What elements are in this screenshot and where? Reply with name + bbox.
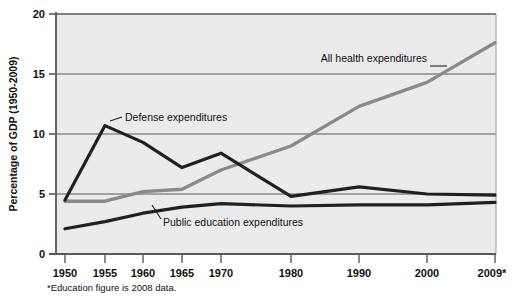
x-tick-label-1980: 1980 — [279, 267, 303, 279]
x-tick-label-1950: 1950 — [53, 267, 77, 279]
expenditures-line-chart: 20 15 10 5 0 Percentage of GDP (1950-200… — [0, 0, 518, 300]
x-tick-label-1955: 1955 — [93, 267, 117, 279]
y-tick-label-20: 20 — [33, 8, 45, 20]
y-tick-label-5: 5 — [39, 188, 45, 200]
footnote: *Education figure is 2008 data. — [47, 282, 176, 293]
y-tick-label-15: 15 — [33, 68, 45, 80]
y-tick-label-10: 10 — [33, 128, 45, 140]
x-tick-label-2000: 2000 — [415, 267, 439, 279]
x-tick-label-1960: 1960 — [131, 267, 155, 279]
chart-container: 20 15 10 5 0 Percentage of GDP (1950-200… — [0, 0, 518, 300]
series-label-defense: Defense expenditures — [125, 111, 227, 123]
x-tick-label-1965: 1965 — [170, 267, 194, 279]
x-tick-label-2009: 2009* — [478, 267, 507, 279]
series-label-health: All health expenditures — [321, 52, 427, 64]
y-tick-label-0: 0 — [39, 248, 45, 260]
x-tick-label-1970: 1970 — [209, 267, 233, 279]
y-axis-title: Percentage of GDP (1950-2009) — [7, 56, 19, 211]
series-label-education: Public education expenditures — [163, 216, 303, 228]
x-tick-label-1990: 1990 — [347, 267, 371, 279]
